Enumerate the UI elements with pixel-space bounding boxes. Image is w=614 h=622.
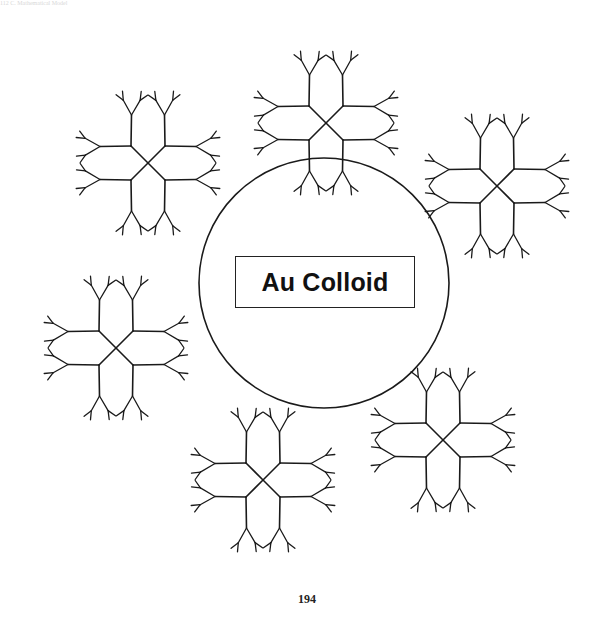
dendrimer-top: [254, 51, 398, 195]
page-number: 194: [0, 592, 614, 607]
core-label-box: Au Colloid: [235, 256, 415, 308]
dendrimer-top-left: [76, 91, 220, 235]
dendrimer-left: [44, 276, 188, 420]
dendrimer-colloid-diagram: [0, 0, 614, 622]
core-label: Au Colloid: [262, 268, 389, 297]
dendrimer-bottom-right: [371, 368, 515, 512]
dendrimer-right: [425, 114, 569, 258]
dendrimer-bottom: [191, 408, 335, 552]
